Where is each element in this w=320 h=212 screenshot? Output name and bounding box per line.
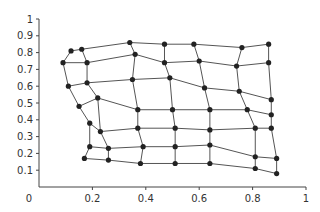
data-point [173, 126, 178, 131]
data-point [245, 107, 250, 112]
data-point [87, 144, 92, 149]
mesh-edge [164, 61, 199, 63]
y-tick-label: 0.1 [17, 165, 33, 176]
y-tick-label: 0.9 [17, 30, 33, 41]
mesh-edge [84, 158, 108, 160]
data-point [84, 80, 89, 85]
mesh-points [60, 40, 279, 176]
data-point [141, 144, 146, 149]
data-point [269, 126, 274, 131]
y-tick-label: 0.4 [17, 114, 33, 125]
mesh-edge [199, 61, 204, 88]
mesh-edge [205, 88, 210, 110]
y-tick-label: 0.2 [17, 148, 33, 159]
mesh-edge [242, 44, 269, 47]
data-point [173, 161, 178, 166]
data-point [269, 97, 274, 102]
data-point [170, 107, 175, 112]
data-point [269, 112, 274, 117]
warped-grid-chart: 0.10.20.30.40.50.60.70.80.9100.20.40.60.… [0, 0, 320, 212]
mesh-edge [237, 63, 269, 66]
mesh-edge [138, 128, 143, 146]
mesh-edge [199, 61, 236, 66]
mesh-edge [130, 43, 165, 45]
data-point [68, 48, 73, 53]
data-point [60, 60, 65, 65]
data-point [127, 40, 132, 45]
data-point [133, 52, 138, 57]
data-point [266, 42, 271, 47]
y-tick-label: 1 [27, 14, 33, 25]
y-tick-label: 0.5 [17, 98, 33, 109]
mesh-edge [210, 163, 255, 168]
data-point [173, 144, 178, 149]
data-point [106, 146, 111, 151]
data-point [135, 107, 140, 112]
mesh-edge [68, 86, 79, 106]
mesh-edge [132, 54, 135, 79]
mesh-edge [255, 157, 276, 159]
y-tick-label: 0.3 [17, 131, 33, 142]
mesh-edge [108, 147, 143, 149]
data-point [76, 104, 81, 109]
x-tick-label: 0.4 [138, 193, 154, 204]
mesh-edge [210, 145, 255, 157]
mesh-edge [239, 91, 271, 99]
mesh-edge [255, 169, 276, 174]
data-point [202, 85, 207, 90]
data-point [253, 126, 258, 131]
data-point [266, 60, 271, 65]
data-point [207, 142, 212, 147]
data-point [253, 154, 258, 159]
mesh-edge [63, 63, 68, 87]
mesh-edge [87, 79, 132, 82]
data-point [207, 161, 212, 166]
y-tick-label: 0.7 [17, 64, 33, 75]
mesh-edge [68, 83, 87, 86]
mesh-edge [247, 110, 271, 115]
mesh-edge [237, 48, 242, 66]
data-point [237, 89, 242, 94]
data-point [95, 95, 100, 100]
mesh-edge [173, 110, 176, 128]
mesh-edge [239, 91, 247, 109]
data-point [167, 75, 172, 80]
mesh-edge [79, 106, 90, 123]
y-tick-label: 0.8 [17, 47, 33, 58]
mesh-edge [175, 128, 210, 130]
mesh-edge [210, 128, 255, 130]
x-tick-label: 0.6 [191, 193, 207, 204]
mesh-edge [82, 43, 130, 50]
mesh-edge [170, 78, 205, 88]
x-tick-label: 0.8 [245, 193, 261, 204]
x-tick-label: 0.2 [84, 193, 100, 204]
data-point [253, 166, 258, 171]
mesh-edge [100, 128, 137, 131]
y-tick-label: 0.6 [17, 81, 33, 92]
data-point [87, 121, 92, 126]
data-point [130, 77, 135, 82]
mesh-edge [132, 79, 137, 109]
mesh-edge [205, 88, 240, 91]
data-point [162, 60, 167, 65]
data-point [135, 126, 140, 131]
mesh-edge [269, 63, 272, 100]
mesh-edge [98, 98, 101, 132]
data-point [162, 42, 167, 47]
mesh-edge [271, 128, 276, 158]
x-tick-label: 1 [303, 193, 309, 204]
mesh-edge [170, 78, 173, 110]
data-point [66, 84, 71, 89]
mesh-lines [63, 43, 277, 174]
mesh-edge [237, 66, 240, 91]
mesh-edge [98, 98, 138, 110]
data-point [106, 158, 111, 163]
mesh-edge [132, 78, 169, 80]
data-point [234, 63, 239, 68]
data-point [239, 45, 244, 50]
data-point [84, 60, 89, 65]
data-point [274, 171, 279, 176]
x-tick-label: 0 [26, 193, 32, 204]
data-point [191, 42, 196, 47]
mesh-edge [175, 145, 210, 147]
